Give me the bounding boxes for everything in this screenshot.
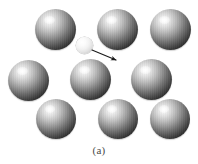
figure-panel: (a)	[0, 0, 198, 164]
arrow-shaft	[92, 50, 116, 60]
figure-caption: (a)	[0, 144, 198, 157]
motion-direction-arrow	[0, 0, 198, 164]
